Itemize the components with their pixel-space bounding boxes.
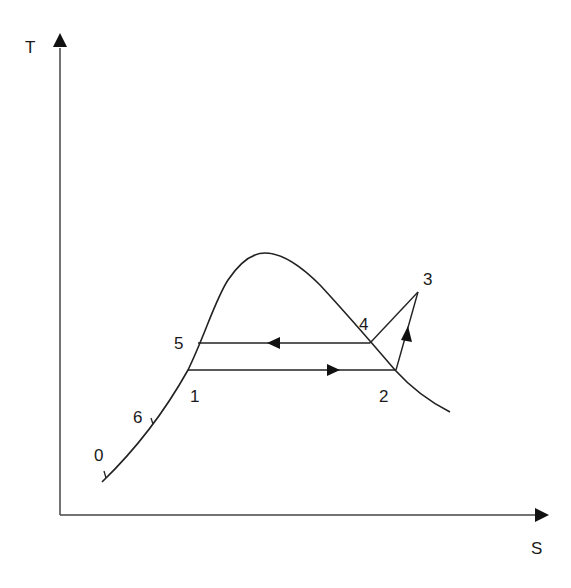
point-label-4: 4 — [359, 316, 368, 333]
point-label-3: 3 — [423, 271, 432, 288]
point-label-0: 0 — [94, 447, 103, 464]
x-axis-label: S — [531, 540, 542, 557]
y-axis-arrow-icon — [53, 33, 67, 47]
tick-6 — [151, 418, 153, 424]
point-label-2: 2 — [379, 388, 388, 405]
x-axis-arrow-icon — [535, 508, 549, 522]
arrow-left-icon — [267, 337, 280, 349]
y-axis-label: T — [25, 39, 35, 56]
point-label-6: 6 — [133, 409, 142, 426]
arrow-right-icon — [327, 364, 340, 376]
ts-diagram — [0, 0, 571, 588]
saturation-curve — [102, 253, 450, 482]
tick-0 — [104, 471, 106, 478]
point-label-1: 1 — [190, 388, 199, 405]
point-label-5: 5 — [174, 335, 183, 352]
arrow-up-icon — [401, 326, 412, 342]
